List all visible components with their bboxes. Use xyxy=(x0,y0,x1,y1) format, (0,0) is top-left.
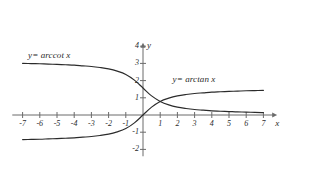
y-tick-label: -2 xyxy=(126,145,139,153)
figure-container: -7-6-5-4-3-2-11234567 -2-11234 x y y= ar… xyxy=(0,0,313,179)
x-tick-label: 2 xyxy=(171,120,183,128)
y-tick-label: -1 xyxy=(126,128,139,136)
x-tick-label: -1 xyxy=(120,120,132,128)
y-tick-label: 1 xyxy=(126,94,139,102)
x-tick-label: 7 xyxy=(257,120,269,128)
y-tick-label: 4 xyxy=(126,42,139,50)
x-tick-label: -2 xyxy=(103,120,115,128)
curve-label-arctan: y= arctan x xyxy=(173,75,216,84)
x-tick-label: 4 xyxy=(206,120,218,128)
x-tick-label: 5 xyxy=(223,120,235,128)
x-tick-label: -3 xyxy=(85,120,97,128)
x-axis-arrowhead xyxy=(272,112,277,117)
x-tick-label: 3 xyxy=(189,120,201,128)
y-tick-label: 3 xyxy=(126,59,139,67)
x-tick-label: -4 xyxy=(68,120,80,128)
x-tick-label: 1 xyxy=(154,120,166,128)
x-tick-label: 6 xyxy=(240,120,252,128)
y-axis-label: y xyxy=(147,41,151,50)
cartesian-plot xyxy=(0,0,313,179)
x-axis-label: x xyxy=(275,119,279,128)
x-tick-label: -6 xyxy=(34,120,46,128)
y-axis-arrowhead xyxy=(140,43,145,48)
y-tick-label: 2 xyxy=(126,77,139,85)
x-tick-label: -7 xyxy=(17,120,29,128)
curve-label-arccot: y= arccot x xyxy=(28,51,70,60)
x-tick-label: -5 xyxy=(51,120,63,128)
